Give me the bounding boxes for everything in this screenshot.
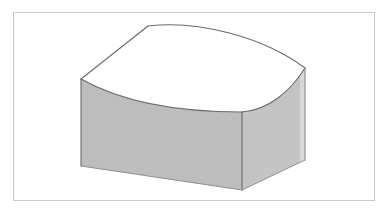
figure-root: A three-dimensional box-like solid drawn… <box>0 0 389 211</box>
curved-top-solid-illustration <box>0 0 389 211</box>
right-edge-highlight <box>300 68 305 162</box>
